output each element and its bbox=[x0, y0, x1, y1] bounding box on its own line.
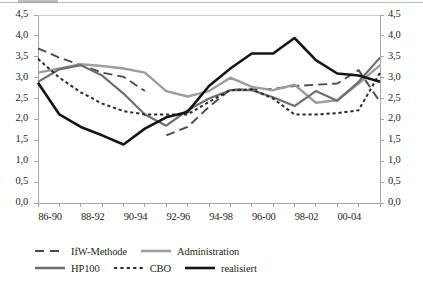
series-layer bbox=[38, 38, 380, 145]
x-axis-tick-label: 98-02 bbox=[285, 211, 329, 222]
legend-swatch-realisiert bbox=[185, 263, 215, 273]
y-axis-tick-label-right: 3,0 bbox=[388, 71, 414, 82]
x-axis-tick-label: 88-92 bbox=[71, 211, 115, 222]
y-axis-tick-label-right: 0,5 bbox=[388, 175, 414, 186]
y-axis-tick-label-left: 3,0 bbox=[2, 71, 28, 82]
y-axis-tick-label-left: 3,5 bbox=[2, 50, 28, 61]
legend-item-cbo: CBO bbox=[114, 263, 171, 274]
y-axis-tick-label-left: 4,5 bbox=[2, 8, 28, 19]
chart-legend: IfW-Methode Administration HP100 CBO rea… bbox=[30, 243, 400, 283]
y-axis-tick-label-left: 0,0 bbox=[2, 196, 28, 207]
y-axis-tick-label-right: 1,5 bbox=[388, 133, 414, 144]
legend-label-realisiert: realisiert bbox=[221, 263, 257, 274]
legend-row-1: IfW-Methode Administration bbox=[35, 243, 253, 259]
legend-swatch-cbo bbox=[114, 263, 144, 273]
line-chart-plot bbox=[0, 0, 423, 284]
legend-label-cbo: CBO bbox=[150, 263, 171, 274]
legend-item-hp100: HP100 bbox=[35, 263, 100, 274]
series-line-ifw-methode-segment2 bbox=[166, 70, 380, 135]
y-axis-tick-label-right: 1,0 bbox=[388, 154, 414, 165]
x-axis-tick-label: 90-94 bbox=[114, 211, 158, 222]
legend-label-administration: Administration bbox=[177, 246, 239, 257]
y-axis-tick-label-right: 3,5 bbox=[388, 50, 414, 61]
x-axis-tick-label: 94-98 bbox=[199, 211, 243, 222]
legend-swatch-hp100 bbox=[35, 263, 65, 273]
legend-label-hp100: HP100 bbox=[71, 263, 100, 274]
y-axis-tick-label-left: 2,5 bbox=[2, 92, 28, 103]
legend-row-2: HP100 CBO realisiert bbox=[35, 260, 271, 276]
x-axis-tick-label: 96-00 bbox=[242, 211, 286, 222]
x-axis-tick-label: 92-96 bbox=[156, 211, 200, 222]
axis-layer bbox=[34, 15, 384, 207]
x-axis-tick-label: 00-04 bbox=[327, 211, 371, 222]
y-axis-tick-label-left: 1,0 bbox=[2, 154, 28, 165]
legend-swatch-ifw-methode bbox=[35, 246, 65, 256]
legend-item-ifw-methode: IfW-Methode bbox=[35, 246, 127, 257]
y-axis-tick-label-right: 4,0 bbox=[388, 29, 414, 40]
y-axis-tick-label-right: 4,5 bbox=[388, 8, 414, 19]
y-axis-tick-label-left: 1,5 bbox=[2, 133, 28, 144]
legend-item-administration: Administration bbox=[141, 246, 239, 257]
legend-item-realisiert: realisiert bbox=[185, 263, 257, 274]
y-axis-tick-label-left: 4,0 bbox=[2, 29, 28, 40]
y-axis-tick-label-left: 2,0 bbox=[2, 112, 28, 123]
y-axis-tick-label-right: 2,0 bbox=[388, 112, 414, 123]
legend-swatch-administration bbox=[141, 246, 171, 256]
y-axis-tick-label-left: 0,5 bbox=[2, 175, 28, 186]
y-axis-tick-label-right: 2,5 bbox=[388, 92, 414, 103]
legend-label-ifw-methode: IfW-Methode bbox=[71, 246, 127, 257]
x-axis-tick-label: 86-90 bbox=[28, 211, 72, 222]
y-axis-tick-label-right: 0,0 bbox=[388, 196, 414, 207]
chart-figure: 0,00,00,50,51,01,01,51,52,02,02,52,53,03… bbox=[0, 0, 423, 284]
